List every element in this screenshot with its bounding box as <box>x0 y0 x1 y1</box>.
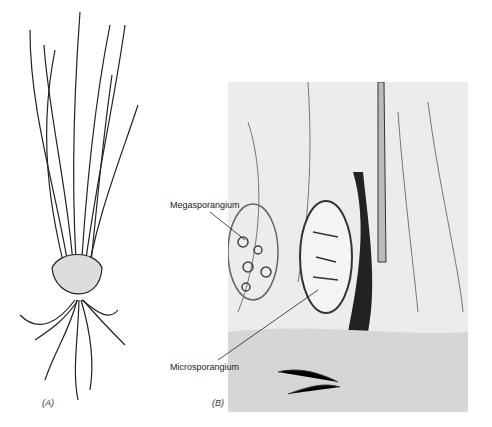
root <box>45 300 77 380</box>
megasporangium-label: Megasporangium <box>170 200 240 210</box>
root <box>20 300 75 324</box>
plant-drawing <box>0 0 160 427</box>
root <box>35 300 78 340</box>
panel-label-b: (B) <box>212 398 224 408</box>
base-tissue <box>228 328 468 412</box>
leaf <box>82 25 125 290</box>
root <box>75 300 79 400</box>
root <box>82 300 118 315</box>
leaf <box>30 30 72 290</box>
microsporangium <box>300 201 352 313</box>
leaf <box>80 25 110 290</box>
leaf <box>74 12 80 290</box>
microsporangium-label: Microsporangium <box>170 362 239 372</box>
corm <box>52 255 102 294</box>
ligule <box>378 82 386 262</box>
section-micrograph <box>228 82 468 412</box>
root <box>81 300 92 390</box>
panel-label-a: (A) <box>42 398 54 408</box>
